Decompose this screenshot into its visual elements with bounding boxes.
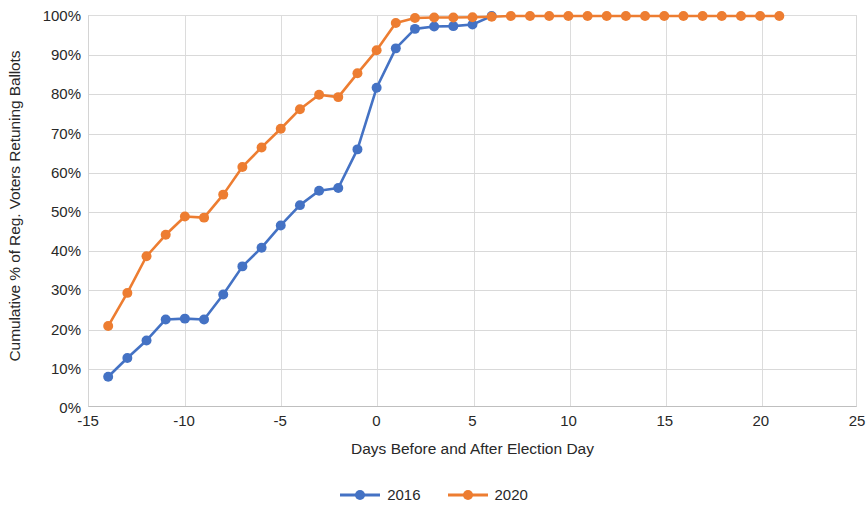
y-axis-tick-label: 40%: [51, 242, 81, 259]
data-point-marker: [429, 13, 439, 23]
data-point-marker: [391, 18, 401, 28]
data-point-marker: [257, 243, 267, 253]
data-point-marker: [218, 289, 228, 299]
series-2020: [103, 11, 784, 331]
data-point-marker: [563, 11, 573, 21]
data-point-marker: [180, 314, 190, 324]
legend-swatch-icon: [339, 488, 381, 502]
data-point-marker: [640, 11, 650, 21]
y-axis-tick-label: 60%: [51, 163, 81, 180]
data-point-marker: [199, 314, 209, 324]
data-point-marker: [774, 11, 784, 21]
data-point-marker: [218, 190, 228, 200]
series-layer: [89, 16, 856, 406]
y-axis-tick-label: 20%: [51, 320, 81, 337]
data-point-marker: [602, 11, 612, 21]
y-axis-tick-label: 80%: [51, 85, 81, 102]
data-point-marker: [237, 261, 247, 271]
y-axis-title: Cumulative % of Reg. Voters Retuning Bal…: [0, 0, 30, 412]
y-axis-tick-label: 50%: [51, 203, 81, 220]
data-point-marker: [161, 230, 171, 240]
data-point-marker: [161, 314, 171, 324]
data-point-marker: [180, 211, 190, 221]
data-point-marker: [448, 13, 458, 23]
x-axis-tick-label: 15: [656, 412, 673, 429]
data-point-marker: [736, 11, 746, 21]
data-point-marker: [698, 11, 708, 21]
data-point-marker: [448, 21, 458, 31]
data-point-marker: [506, 11, 516, 21]
data-point-marker: [237, 162, 247, 172]
y-axis-title-label: Cumulative % of Reg. Voters Retuning Bal…: [6, 51, 24, 362]
x-axis-tick-labels: -15-10-50510152025: [88, 412, 857, 438]
data-point-marker: [372, 45, 382, 55]
data-point-marker: [199, 213, 209, 223]
data-point-marker: [755, 11, 765, 21]
data-point-marker: [525, 11, 535, 21]
legend-swatch-icon: [447, 488, 489, 502]
y-axis-tick-label: 100%: [43, 7, 81, 24]
data-point-marker: [717, 11, 727, 21]
data-point-marker: [678, 11, 688, 21]
data-point-marker: [429, 22, 439, 32]
data-point-marker: [391, 43, 401, 53]
plot-area: [88, 15, 857, 407]
data-point-marker: [333, 183, 343, 193]
data-point-marker: [410, 13, 420, 23]
x-axis-title: Days Before and After Election Day: [88, 440, 857, 458]
data-point-marker: [487, 12, 497, 22]
x-axis-tick-label: 10: [560, 412, 577, 429]
data-point-marker: [410, 24, 420, 34]
data-point-marker: [352, 68, 362, 78]
y-axis-tick-label: 70%: [51, 124, 81, 141]
data-point-marker: [352, 144, 362, 154]
x-axis-tick-label: -15: [77, 412, 99, 429]
data-point-marker: [372, 83, 382, 93]
chart-legend: 20162020: [0, 486, 867, 503]
data-point-marker: [544, 11, 554, 21]
data-point-marker: [103, 321, 113, 331]
x-axis-tick-label: 5: [468, 412, 476, 429]
y-axis-tick-label: 10%: [51, 359, 81, 376]
data-point-marker: [276, 124, 286, 134]
data-point-marker: [103, 372, 113, 382]
data-point-marker: [295, 200, 305, 210]
data-point-marker: [659, 11, 669, 21]
data-point-marker: [333, 92, 343, 102]
series-line: [108, 16, 779, 326]
x-axis-tick-label: 0: [372, 412, 380, 429]
x-axis-tick-label: -5: [274, 412, 287, 429]
data-point-marker: [257, 142, 267, 152]
data-point-marker: [122, 288, 132, 298]
x-axis-tick-label: 20: [753, 412, 770, 429]
data-point-marker: [142, 336, 152, 346]
series-2016: [103, 11, 496, 382]
data-point-marker: [621, 11, 631, 21]
data-point-marker: [295, 104, 305, 114]
legend-entry-2020[interactable]: 2020: [447, 486, 528, 503]
y-axis-tick-label: 90%: [51, 46, 81, 63]
data-point-marker: [468, 12, 478, 22]
legend-label: 2020: [495, 486, 528, 503]
data-point-marker: [314, 90, 324, 100]
data-point-marker: [314, 186, 324, 196]
data-point-marker: [583, 11, 593, 21]
data-point-marker: [276, 220, 286, 230]
x-axis-tick-label: 25: [849, 412, 866, 429]
data-point-marker: [122, 353, 132, 363]
data-point-marker: [142, 251, 152, 261]
x-axis-tick-label: -10: [173, 412, 195, 429]
legend-label: 2016: [387, 486, 420, 503]
line-chart: Cumulative % of Reg. Voters Retuning Bal…: [0, 0, 867, 515]
y-axis-tick-labels: 0%10%20%30%40%50%60%70%80%90%100%: [28, 0, 85, 412]
y-axis-tick-label: 30%: [51, 281, 81, 298]
legend-entry-2016[interactable]: 2016: [339, 486, 420, 503]
